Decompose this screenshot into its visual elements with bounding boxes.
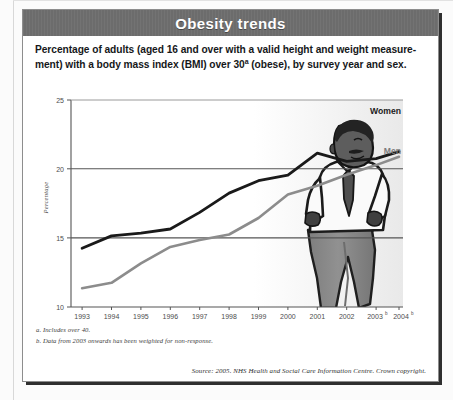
xtick-label-1994: 1994 bbox=[104, 313, 120, 320]
source-attribution: Source: 2005. NHS Health and Social Care… bbox=[192, 367, 426, 374]
ear bbox=[330, 144, 335, 154]
xtick-superscript-2004: b bbox=[411, 311, 414, 316]
ytick-label-25: 25 bbox=[56, 97, 64, 104]
xtick-label-2001: 2001 bbox=[310, 313, 326, 320]
ytick-label-15: 15 bbox=[56, 235, 64, 242]
xtick-label-1997: 1997 bbox=[192, 313, 208, 320]
obesity-trends-figure: Obesity trends Percentage of adults (age… bbox=[22, 9, 439, 382]
figure-shadow-right bbox=[439, 13, 442, 385]
xtick-label-1995: 1995 bbox=[133, 313, 149, 320]
footnote-a: a. Includes over 40. bbox=[36, 326, 90, 333]
xtick-label-2003: 2003 bbox=[367, 313, 383, 320]
page-edge-top bbox=[13, 0, 453, 1]
xtick-label-1999: 1999 bbox=[251, 313, 267, 320]
figure-title-bar: Obesity trends bbox=[23, 10, 438, 36]
description-line-1: Percentage of adults (aged 16 and over w… bbox=[35, 44, 416, 55]
xtick-label-2002: 2002 bbox=[339, 313, 355, 320]
ytick-label-20: 20 bbox=[56, 166, 64, 173]
x-tick-labels: 1993 1994 1995 1996 1997 1998 1999 2000 … bbox=[74, 311, 414, 320]
description-line-2-pre: ment) with a body mass index (BMI) over … bbox=[35, 59, 245, 70]
description-line-2-post: (obese), by survey year and sex. bbox=[248, 59, 406, 70]
xtick-label-1993: 1993 bbox=[74, 313, 90, 320]
figure-description: Percentage of adults (aged 16 and over w… bbox=[35, 43, 427, 72]
xtick-label-2000: 2000 bbox=[280, 313, 296, 320]
chart-svg: 25 20 15 10 bbox=[23, 82, 438, 322]
series-label-men: Men bbox=[384, 146, 401, 156]
series-label-women: Women bbox=[370, 106, 401, 116]
xtick-label-2004: 2004 bbox=[393, 313, 409, 320]
page-title: Obesity trends bbox=[175, 15, 286, 32]
left-hand bbox=[305, 212, 320, 226]
figure-shadow-bottom bbox=[26, 382, 442, 385]
xtick-label-1998: 1998 bbox=[221, 313, 237, 320]
page-edge-left bbox=[13, 0, 14, 400]
ytick-label-10: 10 bbox=[56, 304, 64, 311]
footnote-b: b. Data from 2003 onwards has been weigh… bbox=[36, 337, 213, 344]
line-chart: Percentage bbox=[23, 82, 438, 322]
right-hand bbox=[367, 211, 382, 226]
xtick-label-1996: 1996 bbox=[163, 313, 179, 320]
xtick-superscript-2003: b bbox=[385, 311, 388, 316]
scanned-page: Obesity trends Percentage of adults (age… bbox=[0, 0, 453, 400]
